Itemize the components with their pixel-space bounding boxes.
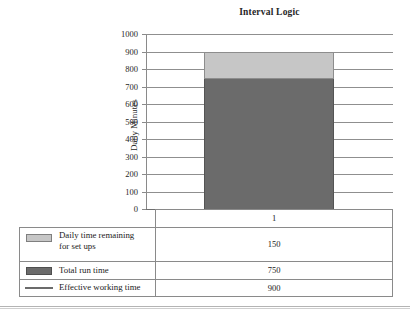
legend-swatch-line-icon [25, 287, 53, 289]
gridline-1000 [146, 34, 393, 35]
page-separator-rule-secondary [0, 308, 410, 309]
plot-area [146, 34, 393, 209]
legend-cell-total-run-time: Total run time [19, 262, 155, 279]
legend-cell-effective-working-time: Effective working time [19, 280, 155, 296]
y-tick-200: 200 [125, 170, 138, 179]
legend-label-effective-working-time: Effective working time [59, 282, 140, 293]
value-effective-working-time: 900 [155, 283, 393, 293]
table-row-daily-time-remaining[interactable]: Daily time remaining for set ups 150 [19, 228, 393, 261]
table-row-category: 1 [19, 209, 393, 227]
y-tick-1000: 1000 [121, 30, 138, 39]
category-value-1: 1 [155, 209, 393, 227]
legend-label-daily-time-remaining: Daily time remaining for set ups [59, 230, 134, 251]
legend-swatch-dark-gray-icon [26, 267, 52, 275]
bar-segment-total-run-time[interactable] [204, 78, 334, 209]
legend-label-total-run-time: Total run time [59, 265, 109, 276]
value-total-run-time: 750 [155, 265, 393, 275]
value-daily-time-remaining: 150 [155, 239, 393, 249]
legend-swatch-light-gray-icon [26, 234, 52, 242]
bar-segment-daily-time-remaining[interactable] [204, 52, 334, 78]
legend-cell-daily-time-remaining: Daily time remaining for set ups [19, 228, 155, 261]
y-tick-900: 900 [125, 47, 138, 56]
table-row-effective-working-time[interactable]: Effective working time 900 [19, 280, 393, 296]
table-row-total-run-time[interactable]: Total run time 750 [19, 262, 393, 279]
y-axis-tick-labels: 1000 900 800 700 600 500 400 300 200 100… [108, 34, 142, 209]
y-tick-100: 100 [125, 187, 138, 196]
chart-figure: Interval Logic Daily Minutes 1000 900 80… [0, 0, 410, 314]
table-rule-bottom [19, 296, 393, 297]
y-tick-600: 600 [125, 100, 138, 109]
y-tick-700: 700 [125, 82, 138, 91]
chart-title: Interval Logic [146, 7, 393, 17]
bar-segment-divider [204, 78, 334, 79]
y-tick-800: 800 [125, 65, 138, 74]
y-tick-500: 500 [125, 117, 138, 126]
y-tick-300: 300 [125, 152, 138, 161]
data-table: 1 Daily time remaining for set ups 150 T… [19, 209, 393, 297]
page-separator-rule [0, 306, 410, 307]
y-tick-400: 400 [125, 135, 138, 144]
